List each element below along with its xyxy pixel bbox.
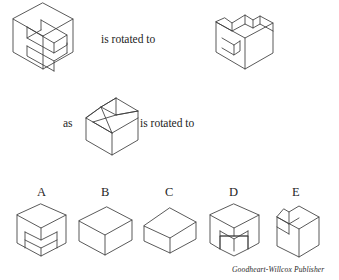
question-sheet: is rotated to as xyxy=(0,0,339,280)
option-a-figure[interactable] xyxy=(14,203,69,258)
option-label-c: C xyxy=(165,186,173,199)
publisher-credit: Goodheart-Willcox Publisher xyxy=(232,266,324,274)
option-d-isometric xyxy=(207,203,262,258)
option-label-d: D xyxy=(229,186,238,199)
option-b-isometric xyxy=(77,205,134,257)
option-a-isometric xyxy=(14,203,69,258)
option-e-isometric xyxy=(272,203,322,258)
row1-left-figure xyxy=(10,2,82,72)
option-e-figure[interactable] xyxy=(272,203,322,258)
row1-right-figure xyxy=(212,4,278,72)
prompt-as-connector: as xyxy=(63,118,73,130)
option-c-figure[interactable] xyxy=(142,206,198,254)
option-label-e: E xyxy=(292,186,300,199)
option-d-figure[interactable] xyxy=(207,203,262,258)
prompt-is-rotated-to-row1: is rotated to xyxy=(101,34,155,46)
option-label-a: A xyxy=(37,186,46,199)
l-shaped-block-isometric xyxy=(212,4,278,72)
row2-middle-figure xyxy=(83,90,141,158)
option-c-isometric xyxy=(142,206,198,254)
c-shaped-block-isometric xyxy=(10,2,82,72)
prompt-is-rotated-to-row2: is rotated to xyxy=(140,118,194,130)
option-b-figure[interactable] xyxy=(77,205,134,257)
wedge-cut-cube-isometric xyxy=(83,90,141,158)
option-label-b: B xyxy=(101,186,109,199)
